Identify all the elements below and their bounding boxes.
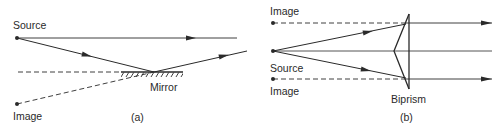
label-source-a: Source <box>13 19 46 31</box>
label-image-a: Image <box>13 110 42 122</box>
direct-ray-arrow-icon <box>186 36 196 41</box>
label-source-b: Source <box>270 62 303 74</box>
label-biprism: Biprism <box>391 93 426 105</box>
output-ray-top-arrow-icon <box>481 21 492 26</box>
caption-a: (a) <box>131 111 144 123</box>
label-image-bottom: Image <box>270 85 299 97</box>
label-mirror: Mirror <box>150 81 178 93</box>
ray-upper-arrow-icon <box>363 29 374 36</box>
output-ray-bottom-arrow-icon <box>481 77 492 82</box>
mirror-hatching <box>121 73 183 78</box>
label-image-top: Image <box>270 5 299 17</box>
ray-upper <box>273 24 406 51</box>
optics-diagram: Source Image Mirror (a) Image Source Ima… <box>0 0 504 134</box>
panel-a <box>15 36 247 107</box>
caption-b: (b) <box>400 111 413 123</box>
ray-lower-arrow-icon <box>361 67 372 74</box>
reflected-ray-arrow-icon <box>218 52 229 59</box>
incident-ray-arrow-icon <box>81 52 92 59</box>
panel-b <box>271 14 492 89</box>
reflected-ray <box>154 51 247 72</box>
